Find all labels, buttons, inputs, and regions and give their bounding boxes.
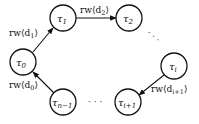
edge-label-d2: rw⟨d2⟩ [80, 5, 109, 17]
edge-label-d0: rw⟨d0⟩ [9, 80, 38, 92]
ellipsis-upper: · · · [145, 28, 162, 45]
node-tau-i-plus-1: τi+1 [115, 89, 141, 115]
edge-label-d1: rw⟨d1⟩ [9, 28, 38, 40]
node-tau-i: τi [161, 53, 187, 79]
edge-label-di1: rw⟨di+1⟩ [151, 84, 187, 96]
node-tau-0: τ0 [10, 49, 36, 75]
cycle-diagram: · · · · · · τ0 τ1 τ2 τi τi+1 τn−1 rw⟨d1⟩… [0, 0, 199, 124]
ellipsis-lower: · · · [88, 97, 102, 107]
node-tau-n-minus-1: τn−1 [50, 89, 76, 115]
node-tau-2: τ2 [116, 5, 142, 31]
node-tau-1: τ1 [50, 5, 76, 31]
